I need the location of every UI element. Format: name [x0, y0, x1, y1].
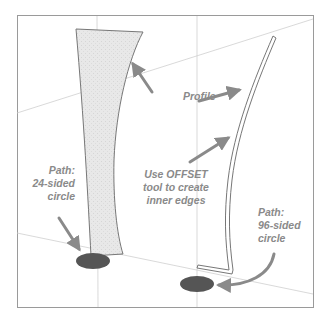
- label-path96-line2: 96-sided: [258, 219, 301, 232]
- circle-96-sided: [180, 276, 214, 292]
- label-offset-line2: tool to create: [136, 181, 216, 194]
- axis-lines: [17, 16, 313, 307]
- label-path24-line1: Path:: [23, 164, 75, 177]
- label-path-96-sided: Path: 96-sided circle: [258, 206, 301, 245]
- label-path24-line2: 24-sided: [23, 177, 75, 190]
- label-offset-line3: inner edges: [136, 194, 216, 207]
- arrow-profile-left-icon: [133, 64, 152, 92]
- circle-24-sided: [76, 253, 110, 269]
- label-offset-instruction: Use OFFSET tool to create inner edges: [136, 168, 216, 207]
- label-profile-text: Profile: [183, 90, 216, 103]
- label-path96-line1: Path:: [258, 206, 301, 219]
- label-profile: Profile: [183, 90, 216, 103]
- diagram-canvas: Profile Use OFFSET tool to create inner …: [0, 0, 330, 321]
- label-path-24-sided: Path: 24-sided circle: [23, 164, 75, 203]
- arrow-offset-icon: [190, 138, 228, 162]
- diagram-drawing: [0, 0, 330, 321]
- label-path24-line3: circle: [23, 190, 75, 203]
- label-path96-line3: circle: [258, 232, 301, 245]
- label-offset-line1: Use OFFSET: [136, 168, 216, 181]
- arrow-path24-icon: [59, 218, 79, 249]
